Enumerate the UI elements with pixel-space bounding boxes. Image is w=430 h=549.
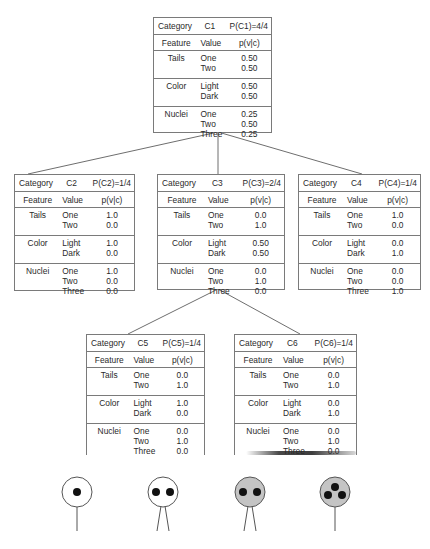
- value-label: Two: [283, 436, 311, 446]
- prob-value: 1.0: [311, 380, 356, 390]
- value-label: One: [62, 266, 90, 276]
- scan-smudge: [246, 451, 356, 455]
- feature-row-nuclei: NucleiOneTwoThree0.00.01.0: [299, 264, 420, 301]
- tail-icon: [252, 506, 256, 531]
- value-label: One: [347, 266, 375, 276]
- feature-row-nuclei: NucleiOneTwoThree1.00.00.0: [15, 264, 134, 301]
- feature-values: OneTwoThree: [198, 109, 227, 144]
- value-label: One: [133, 426, 160, 436]
- feature-probs: 0.250.500.25: [228, 109, 271, 144]
- feature-probs: 1.00.00.0: [90, 266, 134, 301]
- category-prior: P(C3)=2/4: [237, 178, 284, 188]
- feature-name: Color: [299, 238, 345, 263]
- prob-value: 0.50: [228, 81, 271, 91]
- value-label: Two: [283, 380, 311, 390]
- feature-probs: 1.00.0: [161, 398, 204, 423]
- feature-values: OneTwo: [281, 370, 311, 395]
- feature-probs: 0.500.50: [228, 53, 271, 78]
- prob-value: 1.0: [90, 210, 134, 220]
- category-prior: P(C2)=1/4: [90, 178, 134, 188]
- feature-name: Nuclei: [87, 426, 131, 461]
- nucleus-icon: [73, 488, 81, 496]
- feature-name: Tails: [299, 210, 345, 235]
- node-header: CategoryC3P(C3)=2/4: [158, 175, 284, 192]
- column-header-row: FeatureValuep(v|c): [15, 192, 134, 208]
- value-label: One: [283, 426, 311, 436]
- feature-row-color: ColorLightDark1.00.0: [87, 396, 204, 424]
- value-col-header: Value: [60, 195, 90, 205]
- prob-value: 0.50: [228, 53, 271, 63]
- category-label: Category: [87, 338, 131, 348]
- feature-name: Nuclei: [299, 266, 345, 301]
- value-label: Dark: [283, 408, 311, 418]
- feature-name: Nuclei: [235, 426, 281, 461]
- feature-probs: 0.01.00.0: [311, 426, 356, 461]
- feature-values: OneTwoThree: [131, 426, 160, 461]
- feature-row-tails: TailsOneTwo0.01.0: [158, 208, 284, 236]
- prob-value: 0.0: [237, 286, 284, 296]
- value-label: Dark: [200, 91, 227, 101]
- prob-value: 1.0: [237, 276, 284, 286]
- feature-name: Nuclei: [154, 109, 198, 144]
- feature-col-header: Feature: [15, 195, 60, 205]
- prob-value: 0.0: [375, 276, 420, 286]
- value-label: Dark: [133, 408, 160, 418]
- value-label: One: [347, 210, 375, 220]
- feature-probs: 0.500.50: [237, 238, 284, 263]
- value-label: Two: [133, 380, 160, 390]
- feature-values: OneTwo: [131, 370, 160, 395]
- prob-value: 1.0: [311, 408, 356, 418]
- nucleus-icon: [152, 488, 160, 496]
- feature-row-color: ColorLightDark0.500.50: [154, 79, 271, 107]
- category-prior: P(C4)=1/4: [375, 178, 420, 188]
- value-label: Two: [133, 436, 160, 446]
- feature-name: Color: [235, 398, 281, 423]
- feature-row-nuclei: NucleiOneTwoThree0.250.500.25: [154, 107, 271, 144]
- category-name: C2: [60, 178, 90, 188]
- column-header-row: FeatureValuep(v|c): [158, 192, 284, 208]
- prob-value: 1.0: [161, 380, 204, 390]
- value-label: Dark: [208, 248, 238, 258]
- node-header: CategoryC1P(C1)=4/4: [154, 18, 271, 35]
- feature-probs: 0.01.0: [375, 238, 420, 263]
- category-label: Category: [235, 338, 281, 348]
- feature-row-tails: TailsOneTwo1.00.0: [299, 208, 420, 236]
- category-name: C3: [206, 178, 238, 188]
- feature-name: Nuclei: [158, 266, 206, 301]
- prob-col-header: p(v|c): [228, 38, 271, 48]
- value-label: Two: [208, 276, 238, 286]
- prob-value: 0.50: [237, 248, 284, 258]
- feature-row-color: ColorLightDark1.00.0: [15, 236, 134, 264]
- prob-value: 0.0: [375, 220, 420, 230]
- value-label: Two: [200, 63, 227, 73]
- feature-row-tails: TailsOneTwo0.500.50: [154, 51, 271, 79]
- nucleus-icon: [324, 491, 332, 499]
- value-label: Light: [283, 398, 311, 408]
- column-header-row: FeatureValuep(v|c): [299, 192, 420, 208]
- prob-value: 0.0: [161, 426, 204, 436]
- nucleus-icon: [239, 488, 247, 496]
- prob-value: 0.0: [90, 276, 134, 286]
- tail-icon: [165, 506, 169, 531]
- feature-row-tails: TailsOneTwo0.01.0: [235, 368, 356, 396]
- value-label: One: [208, 210, 238, 220]
- category-name: C1: [198, 21, 227, 31]
- concept-node-c4: CategoryC4P(C4)=1/4FeatureValuep(v|c)Tai…: [298, 174, 421, 290]
- value-label: Light: [347, 238, 375, 248]
- feature-name: Color: [154, 81, 198, 106]
- feature-col-header: Feature: [158, 195, 206, 205]
- prob-value: 0.0: [90, 286, 134, 296]
- feature-values: LightDark: [131, 398, 160, 423]
- feature-probs: 0.01.0: [161, 370, 204, 395]
- feature-name: Color: [87, 398, 131, 423]
- concept-node-c6: CategoryC6P(C6)=1/4FeatureValuep(v|c)Tai…: [234, 334, 357, 455]
- value-label: Three: [347, 286, 375, 296]
- feature-name: Tails: [154, 53, 198, 78]
- feature-probs: 1.00.0: [90, 210, 134, 235]
- feature-values: LightDark: [198, 81, 227, 106]
- feature-col-header: Feature: [299, 195, 345, 205]
- prob-value: 0.0: [311, 426, 356, 436]
- category-label: Category: [299, 178, 345, 188]
- prob-value: 1.0: [90, 238, 134, 248]
- prob-value: 1.0: [375, 248, 420, 258]
